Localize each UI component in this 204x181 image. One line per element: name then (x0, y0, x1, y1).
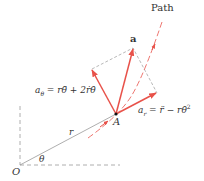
radius-line (20, 114, 116, 165)
path-direction-arrow-upper (152, 44, 155, 50)
a-r-equation: ar = r̈ − rθ̇2 (138, 103, 191, 117)
acceleration-label: a (130, 33, 136, 44)
diagram-graphics (0, 0, 204, 181)
a-theta-equation: aθ = rθ̈ + 2ṙθ̇ (35, 85, 96, 97)
radius-label: r (69, 127, 73, 137)
point-a-label: A (113, 116, 120, 127)
construction-lines (92, 48, 157, 93)
polar-acceleration-diagram: Path a aθ = rθ̈ + 2ṙθ̇ ar = r̈ − rθ̇2 A … (0, 0, 204, 181)
origin-label: O (12, 166, 20, 177)
a-vector (116, 49, 133, 114)
angle-label: θ (39, 154, 44, 164)
path-label: Path (151, 2, 174, 13)
